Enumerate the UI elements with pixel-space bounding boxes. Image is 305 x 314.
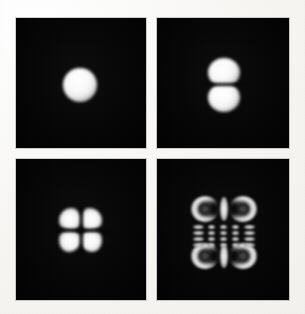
lobe-top-left [59,208,81,230]
lower-lobe [208,83,240,112]
mode-panel-bottom-left [16,159,146,300]
arc-top-right [229,196,257,222]
figure-image: Transverse mode intensity patterns [0,0,305,314]
horizontal-node-line [55,229,107,232]
bar-top-center [220,197,228,221]
central-spot-lobe [63,68,97,102]
mode-panel-top-right [157,18,289,148]
horizontal-node-line [203,83,245,86]
arc-bottom-right [229,243,257,269]
lobe-top-right [80,208,102,230]
arc-bottom-left [191,243,219,269]
figure-title: Transverse mode intensity patterns [0,0,1,1]
mode-panel-bottom-right [157,159,289,300]
arc-top-left [191,196,219,222]
panel-dark-field [157,159,289,300]
lobe-bottom-right [80,230,102,252]
bar-bottom-center [220,244,228,268]
mode-panel-top-left [16,18,146,148]
